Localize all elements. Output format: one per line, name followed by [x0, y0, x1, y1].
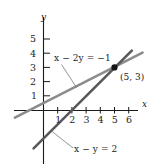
equation-label-1: x − 2y = −1: [54, 54, 111, 63]
y-tick-label-5: 5: [30, 34, 36, 44]
callout-leader-equation2: [52, 131, 74, 148]
y-axis-name-label: y: [41, 13, 46, 22]
x-tick-label-4: 4: [98, 115, 104, 125]
intersection-point-label: (5, 3): [120, 73, 144, 82]
x-tick-label-1: 1: [55, 115, 61, 125]
callout-leader-equation1: [62, 65, 77, 88]
y-tick-label-4: 4: [30, 49, 36, 59]
intersection-point-marker: [111, 64, 117, 70]
x-tick-label-5: 5: [112, 115, 118, 125]
graph-figure: 5 4 3 2 1 1 2 3 4 5 6 y x x − 2y = −1 x …: [0, 0, 161, 168]
y-axis-ticks: [44, 39, 51, 96]
coordinate-plane-svg: [0, 0, 161, 168]
x-tick-label-2: 2: [69, 115, 75, 125]
y-tick-label-3: 3: [30, 63, 36, 73]
y-tick-label-1: 1: [31, 91, 37, 101]
x-tick-label-3: 3: [83, 115, 89, 125]
y-tick-label-2: 2: [30, 77, 36, 87]
x-axis-name-label: x: [142, 100, 147, 109]
equation-label-2: x − y = 2: [74, 145, 117, 154]
x-tick-label-6: 6: [126, 115, 132, 125]
